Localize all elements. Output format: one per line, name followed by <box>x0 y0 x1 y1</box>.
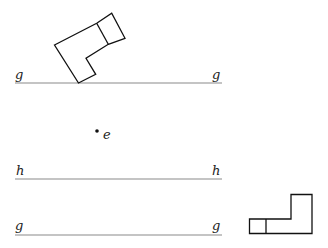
label-h-left: h <box>16 163 24 178</box>
tilted-l-outline <box>55 13 126 83</box>
label-e: e <box>103 127 111 142</box>
line-g-top: g g <box>15 67 222 83</box>
label-g-top-left: g <box>15 67 23 82</box>
line-h: h h <box>15 163 222 179</box>
line-g-bottom: g g <box>15 218 222 235</box>
tilted-l-shape <box>55 13 126 83</box>
label-g-bottom-right: g <box>212 218 220 233</box>
point-e-dot <box>95 129 99 133</box>
label-h-right: h <box>212 163 220 178</box>
tilted-l-divider <box>97 23 109 44</box>
diagram-canvas: g g e h h g g <box>0 0 328 248</box>
upright-l-outline <box>250 195 313 234</box>
upright-l-shape <box>250 195 313 234</box>
label-g-top-right: g <box>212 67 220 82</box>
label-g-bottom-left: g <box>15 218 23 233</box>
point-e: e <box>95 127 111 142</box>
